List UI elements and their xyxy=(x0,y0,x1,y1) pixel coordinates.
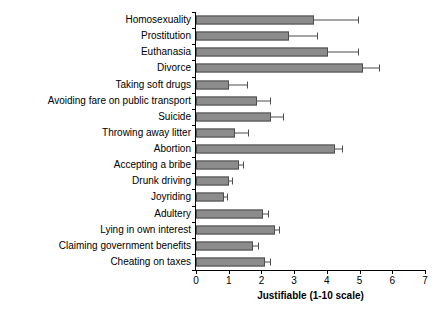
error-bar-cap xyxy=(270,97,271,104)
x-axis-tick-label: 6 xyxy=(390,276,396,286)
y-axis-tick xyxy=(192,141,196,142)
bar-row: Lying in own interest xyxy=(196,222,425,238)
category-label: Lying in own interest xyxy=(100,225,191,235)
bar-row: Cheating on taxes xyxy=(196,254,425,270)
bar-row: Euthanasia xyxy=(196,44,425,60)
x-axis-tick xyxy=(360,270,361,274)
error-bar-line xyxy=(235,132,248,133)
category-label: Accepting a bribe xyxy=(114,160,191,170)
category-label: Cheating on taxes xyxy=(110,257,191,267)
bar xyxy=(196,112,271,121)
bar-row: Homosexuality xyxy=(196,12,425,28)
y-axis-tick xyxy=(192,60,196,61)
x-axis-tick xyxy=(425,270,426,274)
error-bar-cap xyxy=(247,81,248,88)
bar xyxy=(196,128,235,137)
bar xyxy=(196,161,239,170)
y-axis-tick xyxy=(192,254,196,255)
y-axis-tick xyxy=(192,189,196,190)
category-label: Avoiding fare on public transport xyxy=(48,96,191,106)
x-axis-tick xyxy=(229,270,230,274)
y-axis-tick xyxy=(192,173,196,174)
category-label: Adultery xyxy=(154,209,191,219)
bar xyxy=(196,96,257,105)
bar xyxy=(196,80,229,89)
error-bar-cap xyxy=(358,17,359,24)
error-bar-line xyxy=(314,20,358,21)
bar xyxy=(196,48,328,57)
category-label: Prostitution xyxy=(141,31,191,41)
error-bar-line xyxy=(257,100,270,101)
category-label: Divorce xyxy=(157,63,191,73)
y-axis-tick xyxy=(192,28,196,29)
error-bar-line xyxy=(289,36,317,37)
x-axis-tick-label: 2 xyxy=(259,276,265,286)
y-axis-tick xyxy=(192,93,196,94)
bar xyxy=(196,225,275,234)
error-bar-line xyxy=(363,68,379,69)
bar-row: Accepting a bribe xyxy=(196,157,425,173)
y-axis-tick xyxy=(192,206,196,207)
error-bar-cap xyxy=(279,226,280,233)
y-axis-line xyxy=(195,12,196,270)
category-label: Abortion xyxy=(154,144,191,154)
error-bar-cap xyxy=(258,242,259,249)
bar-row: Suicide xyxy=(196,109,425,125)
category-label: Taking soft drugs xyxy=(115,80,191,90)
y-axis-tick xyxy=(192,238,196,239)
error-bar-line xyxy=(271,116,282,117)
y-axis-tick xyxy=(192,109,196,110)
y-axis-tick xyxy=(192,157,196,158)
plot-area: HomosexualityProstitutionEuthanasiaDivor… xyxy=(196,12,425,270)
x-axis-tick xyxy=(392,270,393,274)
bar-row: Adultery xyxy=(196,206,425,222)
y-axis-tick xyxy=(192,12,196,13)
error-bar-line xyxy=(328,52,357,53)
category-label: Throwing away litter xyxy=(102,128,191,138)
x-axis-tick xyxy=(196,270,197,274)
error-bar-line xyxy=(335,149,342,150)
justifiable-bar-chart: HomosexualityProstitutionEuthanasiaDivor… xyxy=(0,0,440,316)
category-label: Claiming government benefits xyxy=(59,241,191,251)
bar-row: Avoiding fare on public transport xyxy=(196,93,425,109)
bar-row: Taking soft drugs xyxy=(196,77,425,93)
category-label: Suicide xyxy=(158,112,191,122)
bar-row: Throwing away litter xyxy=(196,125,425,141)
error-bar-cap xyxy=(317,33,318,40)
x-axis-title: Justifiable (1-10 scale) xyxy=(196,291,425,301)
error-bar-cap xyxy=(283,113,284,120)
error-bar-cap xyxy=(248,129,249,136)
category-label: Homosexuality xyxy=(125,15,191,25)
bar-row: Prostitution xyxy=(196,28,425,44)
category-label: Joyriding xyxy=(151,192,191,202)
bar-row: Abortion xyxy=(196,141,425,157)
bar xyxy=(196,209,263,218)
bar xyxy=(196,64,363,73)
y-axis-tick xyxy=(192,77,196,78)
bar-row: Divorce xyxy=(196,60,425,76)
x-axis-tick-label: 7 xyxy=(422,276,428,286)
bar xyxy=(196,193,224,202)
error-bar-cap xyxy=(342,146,343,153)
error-bar-cap xyxy=(268,210,269,217)
error-bar-line xyxy=(229,84,247,85)
bar xyxy=(196,16,314,25)
bar xyxy=(196,145,335,154)
error-bar-cap xyxy=(270,258,271,265)
category-label: Drunk driving xyxy=(132,176,191,186)
y-axis-tick xyxy=(192,44,196,45)
x-axis-tick-label: 4 xyxy=(324,276,330,286)
bar xyxy=(196,241,253,250)
x-axis-tick xyxy=(294,270,295,274)
y-axis-tick xyxy=(192,125,196,126)
y-axis-tick xyxy=(192,222,196,223)
bar-row: Joyriding xyxy=(196,189,425,205)
x-axis-tick xyxy=(327,270,328,274)
bar xyxy=(196,32,289,41)
error-bar-cap xyxy=(243,162,244,169)
x-axis-tick-label: 1 xyxy=(226,276,232,286)
bar xyxy=(196,177,229,186)
bar-row: Claiming government benefits xyxy=(196,238,425,254)
bar-row: Drunk driving xyxy=(196,173,425,189)
bar xyxy=(196,257,265,266)
